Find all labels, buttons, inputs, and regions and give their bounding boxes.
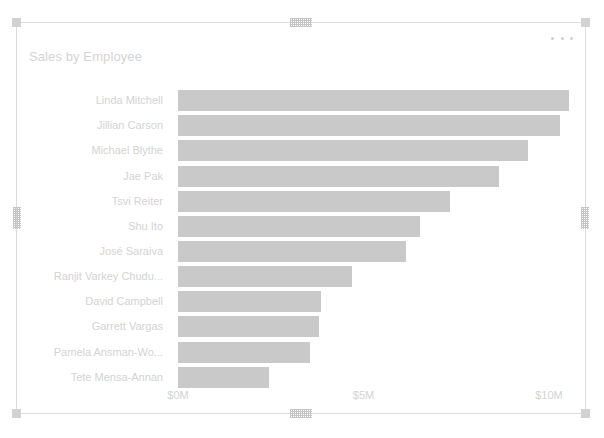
resize-handle-bottom-left[interactable]: [12, 409, 21, 418]
category-label: Garrett Vargas: [17, 321, 163, 332]
bar[interactable]: [178, 90, 569, 111]
bar-chart[interactable]: Linda MitchellJillian CarsonMichael Blyt…: [17, 81, 585, 415]
category-label: Ranjit Varkey Chudu...: [17, 271, 163, 282]
visual-title: Sales by Employee: [29, 49, 142, 64]
drag-handle-left[interactable]: [13, 207, 21, 229]
resize-handle-bottom-right[interactable]: [581, 409, 590, 418]
bar-track: [178, 264, 575, 289]
category-label: Michael Blythe: [17, 145, 163, 156]
bar-row[interactable]: Tete Mensa-Annan: [17, 365, 585, 390]
drag-handle-bottom[interactable]: [290, 409, 312, 418]
bar[interactable]: [178, 191, 450, 212]
bar-track: [178, 314, 575, 339]
category-label: Shu Ito: [17, 221, 163, 232]
x-axis-tick-label: $0M: [167, 389, 188, 401]
category-label: Jillian Carson: [17, 120, 163, 131]
bar[interactable]: [178, 266, 352, 287]
bar-row[interactable]: Ranjit Varkey Chudu...: [17, 264, 585, 289]
category-label: Tsvi Reiter: [17, 196, 163, 207]
ellipsis-dot: [551, 37, 554, 40]
resize-handle-top-right[interactable]: [581, 18, 590, 27]
bar-track: [178, 88, 575, 113]
bar-track: [178, 189, 575, 214]
category-label: Jae Pak: [17, 171, 163, 182]
bar[interactable]: [178, 342, 310, 363]
bar[interactable]: [178, 241, 406, 262]
bar-track: [178, 214, 575, 239]
bar-row[interactable]: Garrett Vargas: [17, 314, 585, 339]
ellipsis-dot: [570, 37, 573, 40]
bar[interactable]: [178, 291, 321, 312]
bar-row[interactable]: Linda Mitchell: [17, 88, 585, 113]
bar[interactable]: [178, 316, 319, 337]
x-axis-tick-label: $5M: [353, 389, 374, 401]
x-axis-tick-label: $10M: [535, 389, 563, 401]
bar[interactable]: [178, 115, 560, 136]
bar-track: [178, 239, 575, 264]
bar-rows: Linda MitchellJillian CarsonMichael Blyt…: [17, 88, 585, 390]
resize-handle-top-left[interactable]: [12, 18, 21, 27]
bar-row[interactable]: David Campbell: [17, 289, 585, 314]
bar-track: [178, 138, 575, 163]
bar-track: [178, 365, 575, 390]
bar[interactable]: [178, 140, 528, 161]
category-label: David Campbell: [17, 296, 163, 307]
category-label: Pamela Ansman-Wo...: [17, 347, 163, 358]
bar-track: [178, 113, 575, 138]
bar-row[interactable]: Tsvi Reiter: [17, 189, 585, 214]
x-axis: $0M$5M$10M: [178, 389, 575, 409]
bar-row[interactable]: José Saraiva: [17, 239, 585, 264]
bar-track: [178, 163, 575, 188]
bar-row[interactable]: Michael Blythe: [17, 138, 585, 163]
ellipsis-dot: [561, 37, 564, 40]
bar[interactable]: [178, 367, 269, 388]
category-label: José Saraiva: [17, 246, 163, 257]
bar-row[interactable]: Shu Ito: [17, 214, 585, 239]
category-label: Tete Mensa-Annan: [17, 372, 163, 383]
more-options-icon[interactable]: [549, 31, 575, 45]
bar-track: [178, 289, 575, 314]
visual-container[interactable]: Sales by Employee Linda MitchellJillian …: [16, 22, 586, 414]
category-label: Linda Mitchell: [17, 95, 163, 106]
bar-row[interactable]: Pamela Ansman-Wo...: [17, 340, 585, 365]
bar-row[interactable]: Jae Pak: [17, 163, 585, 188]
bar-row[interactable]: Jillian Carson: [17, 113, 585, 138]
bar[interactable]: [178, 166, 499, 187]
bar[interactable]: [178, 216, 420, 237]
drag-handle-top[interactable]: [290, 18, 312, 27]
drag-handle-right[interactable]: [581, 207, 589, 229]
bar-track: [178, 340, 575, 365]
